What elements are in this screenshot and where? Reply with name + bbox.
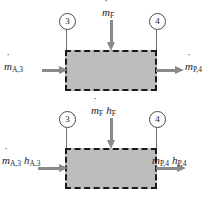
fuel-enthalpy-flow-label: mFhF — [91, 104, 116, 116]
station-label-3: 3 — [65, 114, 70, 124]
station-label-4: 4 — [155, 16, 160, 26]
subscript-f: F — [99, 109, 103, 118]
symbol-m-dot: m — [2, 154, 10, 166]
symbol-m-dot: m — [152, 154, 160, 166]
diagram-canvas: 3 4 mA,3 mP,4 mF — [0, 0, 223, 203]
arrow-shaft — [42, 69, 60, 72]
station-leader-line-3 — [66, 30, 67, 52]
arrow-shaft — [110, 118, 113, 140]
subscript-p4: P,4 — [160, 159, 169, 168]
panel-energy-balance: 3 4 mA,3hA,3 mP,4hP,4 mFhF — [0, 101, 223, 202]
fuel-flow-arrow-icon — [107, 20, 116, 51]
arrow-head — [107, 140, 115, 149]
station-leader-line-4 — [156, 30, 157, 52]
symbol-h: h — [106, 104, 112, 116]
station-leader-line-3 — [66, 128, 67, 150]
arrow-head — [59, 164, 68, 172]
station-marker-3: 3 — [59, 13, 76, 30]
control-volume-boundary — [65, 148, 157, 189]
outlet-mass-flow-label: mP,4 — [185, 60, 202, 72]
symbol-m-dot: m — [185, 60, 193, 72]
station-marker-3: 3 — [59, 111, 76, 128]
arrow-shaft — [156, 69, 176, 72]
outlet-flow-arrow-icon — [156, 66, 184, 75]
symbol-m-dot: m — [4, 60, 12, 72]
subscript-a3: A,3 — [10, 159, 21, 168]
inlet-flow-arrow-icon — [42, 66, 68, 75]
symbol-m-dot: m — [102, 6, 110, 18]
outlet-enthalpy-flow-label: mP,4hP,4 — [152, 154, 186, 166]
arrow-head — [59, 66, 68, 74]
fuel-flow-arrow-icon — [107, 118, 116, 149]
fuel-mass-flow-label: mF — [102, 6, 114, 18]
panel-mass-balance: 3 4 mA,3 mP,4 mF — [0, 0, 223, 101]
station-marker-4: 4 — [149, 13, 166, 30]
station-label-3: 3 — [65, 16, 70, 26]
arrow-shaft — [110, 20, 113, 42]
subscript-f: F — [110, 11, 114, 20]
symbol-m-dot: m — [91, 104, 99, 116]
inlet-flow-arrow-icon — [38, 164, 68, 173]
subscript-p4: P,4 — [177, 159, 186, 168]
subscript-a3: A,3 — [12, 65, 23, 74]
arrow-shaft — [38, 167, 60, 170]
arrow-head — [175, 66, 184, 74]
arrow-head — [107, 42, 115, 51]
inlet-mass-flow-label: mA,3 — [4, 60, 23, 72]
station-marker-4: 4 — [149, 111, 166, 128]
inlet-enthalpy-flow-label: mA,3hA,3 — [2, 154, 41, 166]
control-volume-boundary — [65, 50, 157, 91]
station-label-4: 4 — [155, 114, 160, 124]
subscript-f: F — [112, 109, 116, 118]
subscript-p4: P,4 — [193, 65, 202, 74]
subscript-a3: A,3 — [30, 159, 41, 168]
symbol-h: h — [24, 154, 30, 166]
